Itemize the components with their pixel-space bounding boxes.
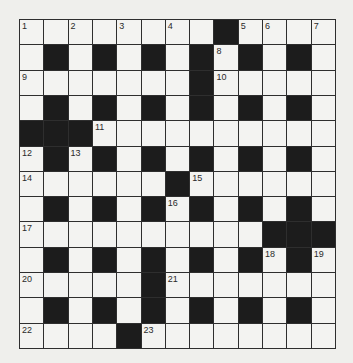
answer-cell[interactable] <box>190 121 213 145</box>
answer-cell[interactable] <box>190 222 213 246</box>
answer-cell[interactable] <box>166 298 189 322</box>
answer-cell[interactable] <box>166 222 189 246</box>
answer-cell[interactable] <box>20 248 43 272</box>
answer-cell[interactable] <box>69 273 92 297</box>
answer-cell[interactable] <box>117 172 140 196</box>
answer-cell[interactable] <box>263 71 286 95</box>
answer-cell[interactable] <box>117 222 140 246</box>
answer-cell[interactable] <box>69 222 92 246</box>
answer-cell[interactable] <box>214 121 237 145</box>
answer-cell[interactable] <box>312 324 335 348</box>
answer-cell[interactable]: 7 <box>312 20 335 44</box>
answer-cell[interactable] <box>117 273 140 297</box>
answer-cell[interactable] <box>287 172 310 196</box>
answer-cell[interactable]: 18 <box>263 248 286 272</box>
answer-cell[interactable] <box>287 20 310 44</box>
answer-cell[interactable] <box>214 298 237 322</box>
answer-cell[interactable] <box>93 71 116 95</box>
answer-cell[interactable] <box>166 147 189 171</box>
answer-cell[interactable] <box>239 121 262 145</box>
answer-cell[interactable] <box>142 71 165 95</box>
answer-cell[interactable]: 8 <box>214 45 237 69</box>
answer-cell[interactable] <box>312 121 335 145</box>
answer-cell[interactable] <box>93 222 116 246</box>
answer-cell[interactable] <box>263 147 286 171</box>
answer-cell[interactable]: 20 <box>20 273 43 297</box>
answer-cell[interactable] <box>263 172 286 196</box>
answer-cell[interactable] <box>117 298 140 322</box>
answer-cell[interactable] <box>239 172 262 196</box>
answer-cell[interactable] <box>166 96 189 120</box>
answer-cell[interactable] <box>312 298 335 322</box>
answer-cell[interactable] <box>69 298 92 322</box>
answer-cell[interactable] <box>312 197 335 221</box>
answer-cell[interactable]: 19 <box>312 248 335 272</box>
answer-cell[interactable] <box>312 45 335 69</box>
answer-cell[interactable] <box>44 324 67 348</box>
answer-cell[interactable]: 10 <box>214 71 237 95</box>
answer-cell[interactable]: 21 <box>166 273 189 297</box>
answer-cell[interactable] <box>214 172 237 196</box>
answer-cell[interactable]: 1 <box>20 20 43 44</box>
answer-cell[interactable] <box>20 96 43 120</box>
answer-cell[interactable] <box>142 222 165 246</box>
answer-cell[interactable] <box>69 96 92 120</box>
answer-cell[interactable] <box>312 147 335 171</box>
answer-cell[interactable] <box>312 172 335 196</box>
answer-cell[interactable]: 2 <box>69 20 92 44</box>
answer-cell[interactable] <box>166 248 189 272</box>
answer-cell[interactable] <box>312 96 335 120</box>
answer-cell[interactable] <box>69 197 92 221</box>
answer-cell[interactable] <box>93 172 116 196</box>
answer-cell[interactable] <box>214 147 237 171</box>
answer-cell[interactable] <box>117 121 140 145</box>
answer-cell[interactable] <box>287 273 310 297</box>
answer-cell[interactable] <box>166 324 189 348</box>
answer-cell[interactable] <box>117 248 140 272</box>
answer-cell[interactable] <box>117 71 140 95</box>
answer-cell[interactable]: 3 <box>117 20 140 44</box>
answer-cell[interactable] <box>69 248 92 272</box>
answer-cell[interactable] <box>263 197 286 221</box>
answer-cell[interactable] <box>93 324 116 348</box>
answer-cell[interactable] <box>190 273 213 297</box>
answer-cell[interactable] <box>117 45 140 69</box>
answer-cell[interactable] <box>214 248 237 272</box>
answer-cell[interactable] <box>214 96 237 120</box>
answer-cell[interactable] <box>69 71 92 95</box>
answer-cell[interactable] <box>69 172 92 196</box>
answer-cell[interactable] <box>263 324 286 348</box>
answer-cell[interactable] <box>142 20 165 44</box>
answer-cell[interactable] <box>166 71 189 95</box>
answer-cell[interactable] <box>20 298 43 322</box>
answer-cell[interactable] <box>312 273 335 297</box>
answer-cell[interactable] <box>239 324 262 348</box>
answer-cell[interactable] <box>142 121 165 145</box>
answer-cell[interactable] <box>263 96 286 120</box>
answer-cell[interactable]: 5 <box>239 20 262 44</box>
answer-cell[interactable] <box>44 20 67 44</box>
answer-cell[interactable] <box>263 298 286 322</box>
answer-cell[interactable] <box>312 71 335 95</box>
answer-cell[interactable] <box>263 45 286 69</box>
answer-cell[interactable] <box>166 121 189 145</box>
answer-cell[interactable] <box>287 324 310 348</box>
answer-cell[interactable] <box>263 273 286 297</box>
answer-cell[interactable] <box>44 71 67 95</box>
answer-cell[interactable] <box>166 45 189 69</box>
answer-cell[interactable]: 23 <box>142 324 165 348</box>
answer-cell[interactable]: 9 <box>20 71 43 95</box>
answer-cell[interactable] <box>117 147 140 171</box>
answer-cell[interactable] <box>287 71 310 95</box>
answer-cell[interactable] <box>69 45 92 69</box>
answer-cell[interactable] <box>287 121 310 145</box>
answer-cell[interactable] <box>69 324 92 348</box>
answer-cell[interactable] <box>20 45 43 69</box>
answer-cell[interactable]: 14 <box>20 172 43 196</box>
answer-cell[interactable] <box>239 273 262 297</box>
answer-cell[interactable] <box>44 222 67 246</box>
answer-cell[interactable] <box>190 20 213 44</box>
answer-cell[interactable]: 4 <box>166 20 189 44</box>
answer-cell[interactable] <box>117 197 140 221</box>
answer-cell[interactable]: 17 <box>20 222 43 246</box>
